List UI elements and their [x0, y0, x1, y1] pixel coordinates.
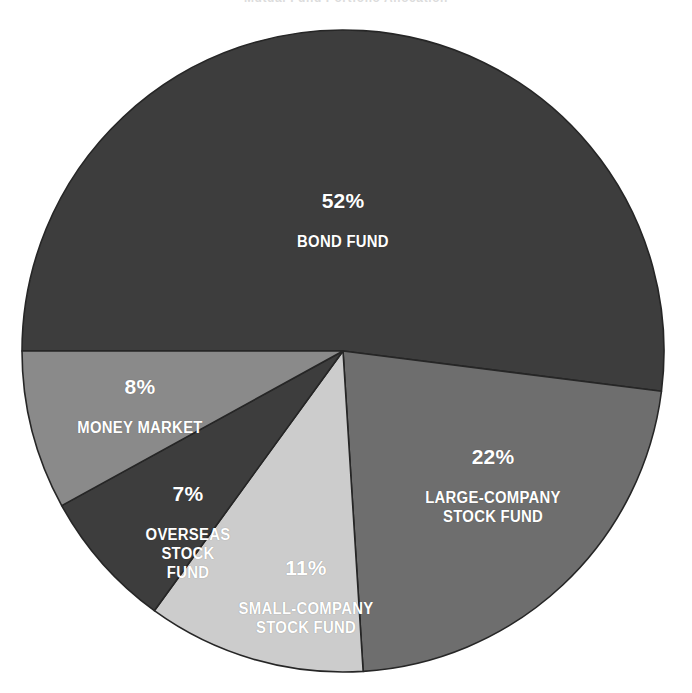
- slice-name-money-market: MONEY MARKET: [41, 419, 238, 438]
- slice-percent-money-market: 8%: [34, 375, 246, 399]
- slice-name-overseas-stock-fund: OVERSEAS STOCK FUND: [123, 526, 253, 582]
- slice-label-large-company-stock-fund: 22% LARGE-COMPANY STOCK FUND: [393, 426, 593, 545]
- slice-label-overseas-stock-fund: 7% OVERSEAS STOCK FUND: [118, 463, 258, 601]
- slice-name-small-company-stock-fund: SMALL-COMPANY STOCK FUND: [206, 600, 407, 637]
- slice-name-bond-fund: BOND FUND: [250, 233, 436, 252]
- slice-percent-bond-fund: 52%: [243, 189, 443, 213]
- slice-label-money-market: 8% MONEY MARKET: [34, 356, 246, 457]
- slice-percent-large-company-stock-fund: 22%: [393, 445, 593, 469]
- pie-chart: 52% BOND FUND 22% LARGE-COMPANY STOCK FU…: [0, 0, 692, 693]
- slice-label-bond-fund: 52% BOND FUND: [243, 170, 443, 271]
- slice-percent-overseas-stock-fund: 7%: [118, 482, 258, 506]
- slice-name-large-company-stock-fund: LARGE-COMPANY STOCK FUND: [400, 489, 586, 526]
